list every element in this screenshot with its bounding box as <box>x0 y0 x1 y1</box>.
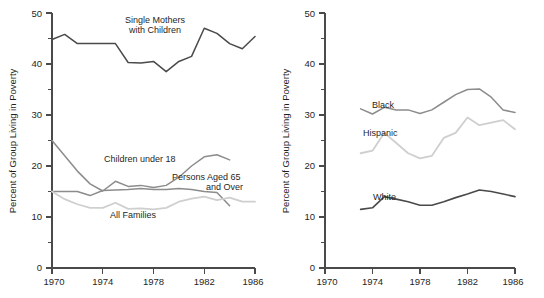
left-ytick-40: 40 <box>31 58 42 69</box>
left-ytick-0: 0 <box>37 262 42 273</box>
right-xtick-1970: 1970 <box>316 276 337 287</box>
series-label-single-mothers-line1: Single Mothers <box>125 15 186 25</box>
right-xtick-1978: 1978 <box>409 276 430 287</box>
left-ytick-30: 30 <box>31 109 42 120</box>
series-label-hispanic: Hispanic <box>363 128 398 138</box>
right-ytick-50: 50 <box>304 8 315 19</box>
right-ytick-0: 0 <box>310 262 315 273</box>
right-ytick-10: 10 <box>304 211 315 222</box>
right-xtick-1974: 1974 <box>362 276 383 287</box>
left-axis-lines <box>52 13 255 268</box>
left-xtick-1978: 1978 <box>143 276 164 287</box>
series-label-single-mothers-line2: with Children <box>128 25 181 35</box>
right-panel: Percent of Group Living in Poverty 0 10 … <box>280 8 524 287</box>
left-ytick-50: 50 <box>31 8 42 19</box>
series-label-children-under-18: Children under 18 <box>104 154 176 164</box>
left-xtick-1986: 1986 <box>242 276 263 287</box>
left-x-ticks <box>52 268 255 274</box>
series-label-persons-aged-65-line2: and Over <box>206 182 243 192</box>
right-xtick-1986: 1986 <box>502 276 523 287</box>
chart-svg: Percent of Group Living in Poverty <box>0 0 544 298</box>
series-label-all-families: All Families <box>110 210 157 220</box>
right-xtick-1982: 1982 <box>457 276 478 287</box>
series-label-black: Black <box>372 100 395 110</box>
right-x-ticks <box>325 268 515 274</box>
right-ytick-30: 30 <box>304 109 315 120</box>
series-label-persons-aged-65-line1: Persons Aged 65 <box>172 172 241 182</box>
right-ytick-20: 20 <box>304 160 315 171</box>
left-xtick-1974: 1974 <box>92 276 113 287</box>
series-line-children-under-18 <box>52 141 230 191</box>
left-panel: Percent of Group Living in Poverty <box>7 8 264 287</box>
left-xtick-1970: 1970 <box>43 276 64 287</box>
poverty-line-chart-figure: Percent of Group Living in Poverty <box>0 0 544 298</box>
left-xtick-1982: 1982 <box>194 276 215 287</box>
right-y-axis-title: Percent of Group Living in Poverty <box>280 68 291 213</box>
left-y-axis-title: Percent of Group Living in Poverty <box>7 68 18 213</box>
right-axis-lines <box>325 13 515 268</box>
right-y-minor-ticks <box>321 39 325 243</box>
left-ytick-10: 10 <box>31 211 42 222</box>
right-ytick-40: 40 <box>304 58 315 69</box>
series-label-white: White <box>373 192 396 202</box>
left-ytick-20: 20 <box>31 160 42 171</box>
